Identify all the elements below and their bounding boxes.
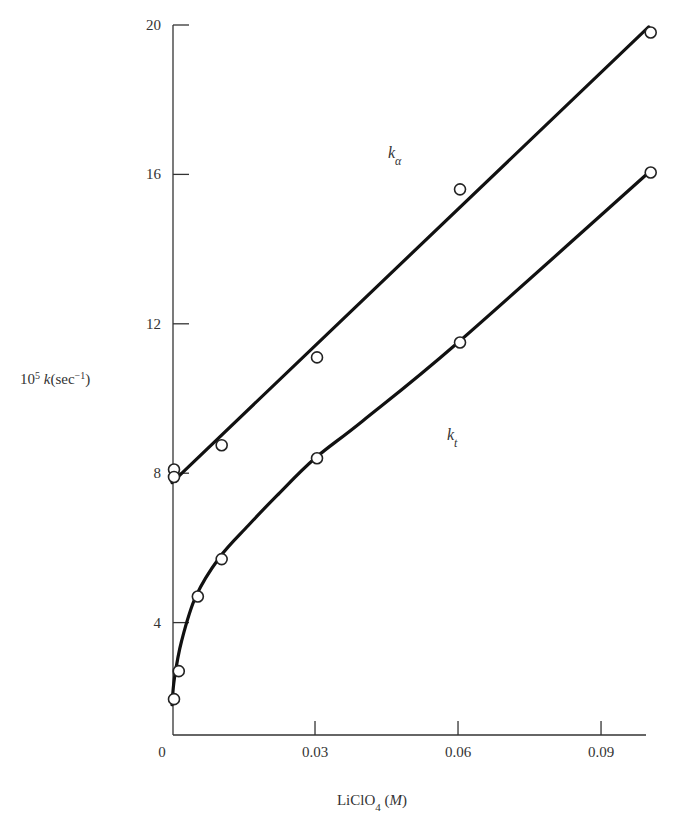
data-point-marker xyxy=(312,453,323,464)
series-label-k-alpha: kα xyxy=(388,144,402,168)
data-point-marker xyxy=(312,352,323,363)
data-point-marker xyxy=(192,591,203,602)
y-axis-label-part: ) xyxy=(85,371,90,388)
y-axis-label-part: 10 xyxy=(20,371,35,387)
y-tick-label: 4 xyxy=(154,615,162,631)
data-markers xyxy=(169,27,657,705)
y-tick-label: 20 xyxy=(146,17,161,33)
axes: 4812162000.030.060.09 xyxy=(146,17,646,760)
labels: 105 k(sec−1)LiClO4 (M)kαkt xyxy=(20,144,458,813)
x-axis-label-part: LiClO xyxy=(337,792,376,808)
series-curve-1 xyxy=(172,173,649,705)
y-axis-label: 105 k(sec−1) xyxy=(20,370,90,389)
x-axis-label-part: ( xyxy=(381,792,390,809)
data-point-marker xyxy=(455,184,466,195)
data-point-marker xyxy=(169,694,180,705)
y-tick-label: 12 xyxy=(146,316,161,332)
series-label-k-t: kt xyxy=(447,426,458,450)
data-point-marker xyxy=(173,666,184,677)
t-subscript: t xyxy=(454,436,458,450)
data-point-marker xyxy=(169,471,180,482)
x-axis-label-part: ) xyxy=(402,792,407,809)
x-axis-label: LiClO4 (M) xyxy=(337,792,407,813)
x-tick-label: 0.09 xyxy=(588,744,614,760)
data-point-marker xyxy=(645,27,656,38)
y-tick-label: 16 xyxy=(146,166,162,182)
alpha-subscript: α xyxy=(395,154,402,168)
x-tick-label: 0 xyxy=(158,744,166,760)
curves xyxy=(172,27,649,705)
series-curve-0 xyxy=(172,27,649,483)
data-point-marker xyxy=(455,337,466,348)
x-tick-label: 0.06 xyxy=(445,744,472,760)
data-point-marker xyxy=(216,440,227,451)
data-point-marker xyxy=(216,554,227,565)
y-tick-label: 8 xyxy=(154,465,162,481)
chart: 4812162000.030.060.09 105 k(sec−1)LiClO4… xyxy=(0,0,674,821)
x-tick-label: 0.03 xyxy=(302,744,328,760)
y-axis-label-part: (sec xyxy=(50,371,74,388)
data-point-marker xyxy=(645,167,656,178)
y-axis-label-part: −1 xyxy=(75,370,86,381)
